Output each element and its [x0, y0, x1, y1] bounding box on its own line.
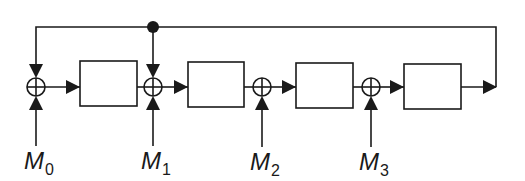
adder-2: [253, 78, 271, 96]
input-label-m0: M0: [24, 149, 54, 178]
arrow-icon: [483, 80, 497, 94]
adder-1: [144, 78, 162, 96]
block-2: [188, 62, 244, 107]
input-label-m3: M3: [359, 150, 389, 179]
arrow-icon: [29, 64, 43, 78]
arrow-icon: [146, 96, 160, 110]
block-1: [80, 61, 137, 106]
block-3: [296, 63, 353, 108]
arrow-icon: [282, 80, 296, 94]
arrow-icon: [29, 96, 43, 110]
arrow-icon: [174, 80, 188, 94]
adder-3: [362, 78, 380, 96]
arrow-icon: [255, 96, 269, 110]
block-diagram: M0 M1 M2 M3: [0, 0, 525, 181]
junction-dot-icon: [147, 21, 159, 33]
input-lines: [36, 104, 371, 147]
block-4: [404, 64, 461, 109]
arrow-icon: [146, 64, 160, 78]
arrow-icon: [390, 80, 404, 94]
adder-0: [27, 78, 45, 96]
arrow-icon: [66, 80, 80, 94]
input-label-m2: M2: [250, 150, 280, 179]
arrow-icon: [364, 96, 378, 110]
input-label-m1: M1: [141, 149, 171, 178]
